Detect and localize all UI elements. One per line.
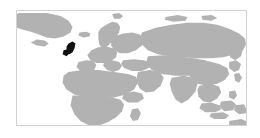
world-map-locator-widget	[0, 0, 260, 138]
world-map-svg[interactable]	[17, 11, 246, 125]
map-frame	[16, 10, 247, 126]
